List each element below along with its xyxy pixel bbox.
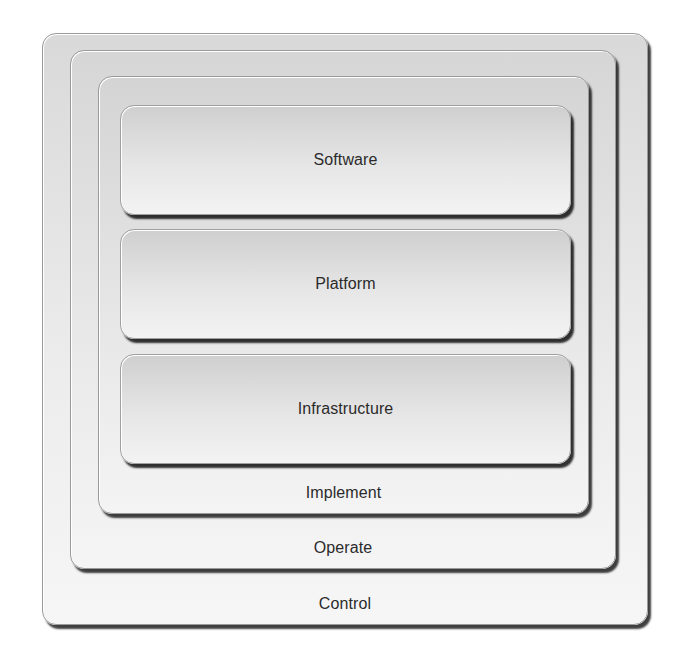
platform-layer: Platform <box>120 229 571 339</box>
software-layer: Software <box>120 105 571 215</box>
implement-label: Implement <box>98 484 589 502</box>
platform-label: Platform <box>315 275 375 293</box>
infrastructure-layer: Infrastructure <box>120 354 571 464</box>
infrastructure-label: Infrastructure <box>298 400 394 418</box>
software-label: Software <box>314 151 378 169</box>
control-label: Control <box>42 595 648 613</box>
operate-label: Operate <box>70 539 616 557</box>
